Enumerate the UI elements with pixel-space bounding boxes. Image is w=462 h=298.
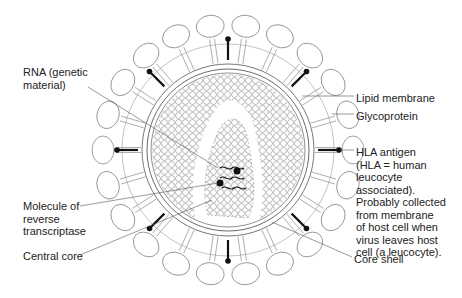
glycoprotein-knob [263,20,298,52]
glycoprotein-stalk [238,39,242,64]
glycoprotein-stalk [262,230,272,253]
glycoprotein-knob [292,227,328,262]
glycoprotein-knob [94,169,123,202]
label-core-shell: Core shell [354,253,404,266]
hla-antigen-stem [292,214,306,228]
glycoprotein-stalk [238,236,242,261]
glycoprotein-knob [316,200,350,235]
glycoprotein-stalk [243,236,247,261]
glycoprotein-stalk [215,39,219,64]
hla-antigen-stem [292,72,306,86]
glycoprotein-knob [230,13,261,39]
hla-antigen-head [304,226,310,232]
glycoprotein-knob [316,65,350,100]
label-glycoprotein: Glycoprotein [356,110,418,123]
hla-antigen-stem [150,72,164,86]
glycoprotein-knob [128,227,164,262]
glycoprotein-knob [292,38,328,73]
glycoprotein-knob [195,261,226,287]
glycoprotein-knob [106,65,140,100]
hla-antigen-head [225,36,231,42]
glycoprotein-stalk [179,49,189,72]
glycoprotein-stalk [184,230,194,253]
glycoprotein-knob [263,248,298,280]
glycoprotein-knob [195,13,226,39]
glycoprotein-stalk [266,228,276,251]
glycoprotein-knob [92,136,114,164]
label-lipid-membrane: Lipid membrane [356,92,435,105]
hla-antigen-head [304,69,310,75]
hla-antigen-head [147,69,153,75]
label-reverse-transcriptase: Molecule of reverse transcriptase [23,200,86,238]
label-hla-antigen: HLA antigen (HLA = human leucocyte assoc… [356,146,462,259]
glycoprotein-knob [128,38,164,73]
label-central-core: Central core [23,250,83,263]
glycoprotein-stalk [210,236,214,261]
hla-antigen-head [114,147,120,153]
hla-antigen-head [225,258,231,264]
glycoprotein-knob [106,200,140,235]
glycoprotein-stalk [184,47,194,70]
glycoprotein-stalk [210,39,214,64]
glycoprotein-knob [230,261,261,287]
glycoprotein-stalk [243,39,247,64]
reverse-transcriptase-dot-1 [234,168,241,175]
glycoprotein-stalk [179,228,189,251]
protein-matrix [152,74,304,232]
label-rna: RNA (genetic material) [23,66,88,91]
glycoprotein-stalk [262,47,272,70]
glycoprotein-stalk [266,49,276,72]
glycoprotein-stalk [215,236,219,261]
glycoprotein-knob [159,20,194,52]
glycoprotein-knob [159,248,194,280]
glycoprotein-knob [94,98,123,131]
